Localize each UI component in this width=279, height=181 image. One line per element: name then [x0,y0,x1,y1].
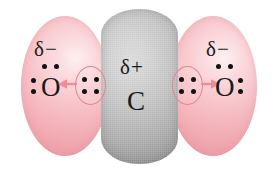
lone-pair-dot [31,89,36,94]
lone-pair-dot [216,64,221,69]
lone-pair-dot [228,64,233,69]
atom-symbol-oxygen-right: O [215,74,235,101]
bonding-electron-dot [179,89,184,94]
bonding-electron-dot [94,89,99,94]
bonding-electron-dot [94,77,99,82]
bonding-electron-dot [82,89,87,94]
lone-pair-dot [42,64,47,69]
bonding-electron-dot [191,89,196,94]
lone-pair-dot [238,89,243,94]
bonding-electron-dot [179,77,184,82]
delta-plus-label-carbon: δ+ [120,57,144,78]
bonding-electron-dot [191,77,196,82]
bonding-pair-ellipse-right [172,66,203,105]
electron-shift-arrow-left [58,78,78,90]
delta-minus-label-right: δ− [206,39,230,60]
bonding-electron-dot [82,77,87,82]
bonding-pair-ellipse-left [75,66,106,105]
atom-symbol-carbon: C [127,88,145,115]
co2-polarity-figure: δ− O δ+ C δ− O [0,0,279,181]
lone-pair-dot [31,78,36,83]
lone-pair-dot [238,78,243,83]
lone-pair-dot [54,64,59,69]
delta-minus-label-left: δ− [34,39,58,60]
